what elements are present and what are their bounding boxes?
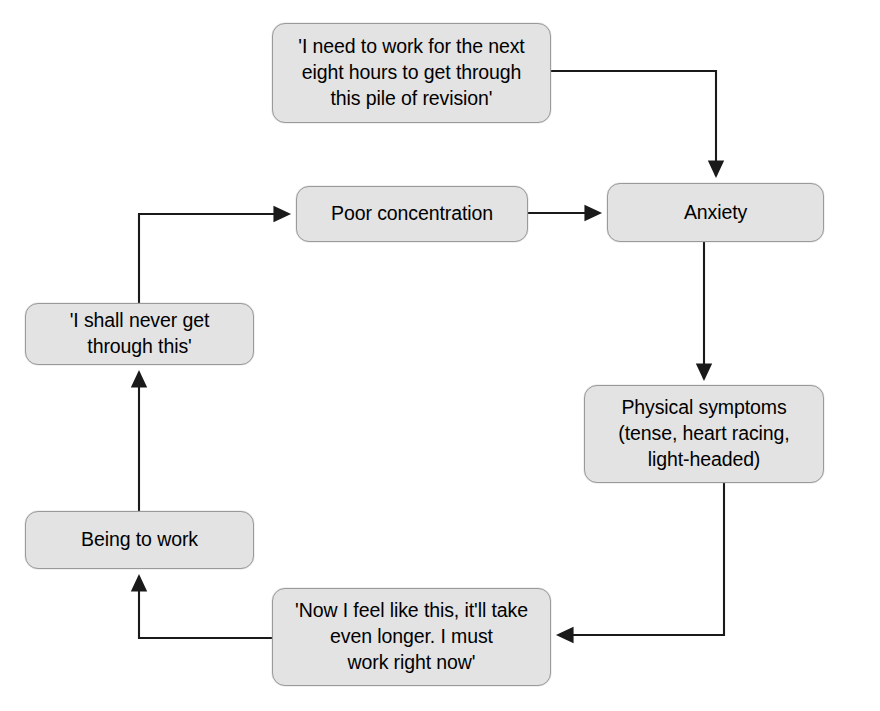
node-being-to-work[interactable]: Being to work — [25, 511, 254, 569]
node-poor-concentration-label: Poor concentration — [307, 201, 517, 227]
node-trigger-thought[interactable]: 'I need to work for the next eight hours… — [272, 23, 551, 123]
edge-urgency-to-being-to-work — [139, 576, 272, 638]
node-anxiety[interactable]: Anxiety — [607, 183, 824, 242]
node-physical-symptoms[interactable]: Physical symptoms (tense, heart racing, … — [584, 385, 824, 483]
node-physical-symptoms-label: Physical symptoms (tense, heart racing, … — [595, 395, 813, 473]
node-negative-thought[interactable]: 'I shall never get through this' — [25, 303, 254, 365]
node-urgency-thought-label: 'Now I feel like this, it'll take even l… — [283, 598, 540, 676]
node-urgency-thought[interactable]: 'Now I feel like this, it'll take even l… — [272, 588, 551, 686]
node-trigger-thought-label: 'I need to work for the next eight hours… — [283, 34, 540, 112]
node-anxiety-label: Anxiety — [618, 200, 813, 226]
edge-trigger-to-anxiety — [551, 71, 716, 176]
edge-negative-thought-to-concentration — [139, 214, 289, 303]
node-negative-thought-label: 'I shall never get through this' — [36, 308, 243, 360]
node-being-to-work-label: Being to work — [36, 527, 243, 553]
node-poor-concentration[interactable]: Poor concentration — [296, 186, 528, 242]
flowchart-canvas: 'I need to work for the next eight hours… — [0, 0, 880, 711]
edge-symptoms-to-urgency — [558, 483, 724, 635]
